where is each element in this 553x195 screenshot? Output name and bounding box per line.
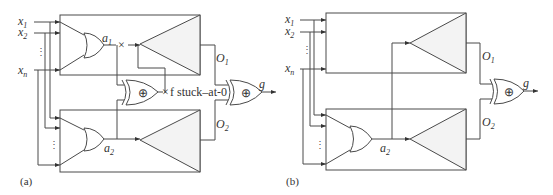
- input-xn-b: xn: [284, 61, 294, 77]
- input-xn-a: xn: [17, 63, 27, 79]
- caption-a: (a): [20, 175, 33, 188]
- label-g-a: g: [259, 77, 265, 91]
- xor-symbol-output-a: ⊕: [241, 86, 251, 100]
- vdots-top-a: ⋮: [36, 46, 46, 57]
- label-o2-a: O2: [216, 117, 229, 133]
- fault-label: f stuck–at-0: [170, 85, 227, 99]
- panel-a: a1 × a2 ⊕ × f stuck–at-0 O1 O2 ⊕ g: [17, 14, 276, 188]
- label-o1-b: O1: [482, 49, 495, 65]
- circuit-diagram: a1 × a2 ⊕ × f stuck–at-0 O1 O2 ⊕ g: [0, 0, 553, 195]
- caption-b: (b): [286, 175, 299, 188]
- vdots-top-b: ⋮: [302, 44, 312, 55]
- vdots-bottom-a: ⋮: [49, 139, 59, 150]
- xor-symbol-output-b: ⊕: [504, 85, 514, 99]
- label-o1-a: O1: [216, 51, 229, 67]
- panel-b: a2 O1 O2 ⊕ g x1 x2 ⋮ xn ⋮ (b): [284, 12, 538, 188]
- label-o2-b: O2: [482, 115, 495, 131]
- label-g-b: g: [523, 76, 529, 90]
- xor-symbol-middle-a: ⊕: [138, 86, 148, 100]
- fault-marker: ×: [162, 85, 169, 99]
- vdots-bottom-b: ⋮: [315, 139, 325, 150]
- break-marker-a1: ×: [118, 38, 125, 52]
